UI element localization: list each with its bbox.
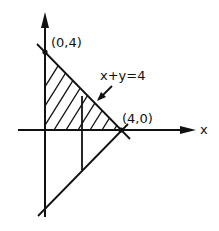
x-axis-arrow-icon: [180, 126, 196, 134]
point-label-0-4: (0,4): [51, 35, 82, 50]
hatch-line: [18, 50, 68, 130]
diagram-canvas: (0,4) (4,0) x+y=4 x: [0, 0, 219, 231]
line-x-plus-y-eq-4: [37, 44, 130, 139]
hatch-line: [54, 50, 104, 130]
x-axis-label: x: [200, 122, 208, 137]
point-label-4-0: (4,0): [122, 111, 153, 126]
hatch-line: [78, 50, 128, 130]
line-label: x+y=4: [100, 68, 145, 83]
point-0-4: [42, 49, 47, 54]
lower-diagonal-line: [38, 124, 128, 216]
point-4-0: [118, 127, 123, 132]
hatch-line: [42, 50, 92, 130]
y-axis-arrow-icon: [41, 12, 49, 28]
